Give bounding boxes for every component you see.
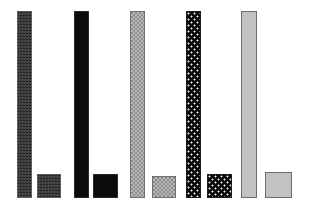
tall-bar-2 — [74, 11, 89, 198]
square-bar-1 — [37, 174, 61, 198]
square-bar-2 — [93, 174, 118, 198]
tall-bar-5 — [241, 11, 257, 198]
tall-bar-1 — [17, 11, 32, 198]
tall-bar-4 — [186, 11, 201, 198]
pattern-swatch-figure — [0, 0, 309, 216]
square-bar-5 — [265, 172, 292, 198]
square-bar-3 — [152, 176, 176, 198]
tall-bar-3 — [130, 11, 145, 198]
square-bar-4 — [207, 174, 232, 198]
